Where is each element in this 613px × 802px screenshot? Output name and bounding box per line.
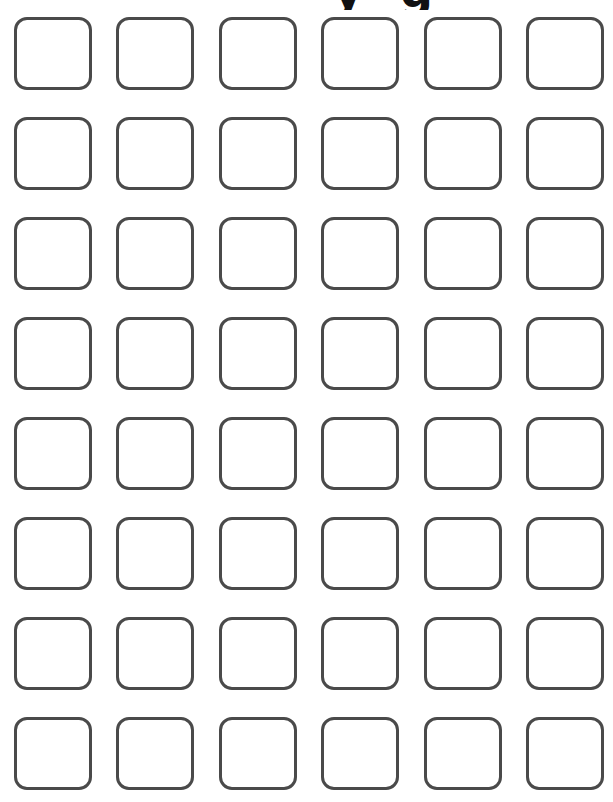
- empty-box-r1-c5: [424, 17, 502, 90]
- empty-box-r4-c4: [321, 317, 399, 390]
- empty-box-r5-c2: [116, 417, 194, 490]
- empty-box-r8-c4: [321, 717, 399, 790]
- empty-box-r1-c3: [219, 17, 297, 90]
- empty-box-r6-c5: [424, 517, 502, 590]
- empty-box-r5-c4: [321, 417, 399, 490]
- empty-box-r1-c1: [14, 17, 92, 90]
- empty-box-r7-c3: [219, 617, 297, 690]
- empty-box-r5-c6: [526, 417, 604, 490]
- empty-box-r6-c4: [321, 517, 399, 590]
- empty-box-r7-c1: [14, 617, 92, 690]
- empty-box-r8-c2: [116, 717, 194, 790]
- empty-box-r3-c2: [116, 217, 194, 290]
- empty-box-grid: [0, 0, 613, 802]
- empty-box-r2-c5: [424, 117, 502, 190]
- empty-box-r2-c3: [219, 117, 297, 190]
- empty-box-r4-c3: [219, 317, 297, 390]
- empty-box-r1-c2: [116, 17, 194, 90]
- empty-box-r5-c5: [424, 417, 502, 490]
- empty-box-r7-c2: [116, 617, 194, 690]
- empty-box-r4-c6: [526, 317, 604, 390]
- empty-box-r5-c3: [219, 417, 297, 490]
- empty-box-r6-c3: [219, 517, 297, 590]
- empty-box-r6-c6: [526, 517, 604, 590]
- empty-box-r1-c6: [526, 17, 604, 90]
- empty-box-r2-c4: [321, 117, 399, 190]
- empty-box-r1-c4: [321, 17, 399, 90]
- empty-box-r4-c5: [424, 317, 502, 390]
- empty-box-r8-c6: [526, 717, 604, 790]
- empty-box-r3-c4: [321, 217, 399, 290]
- empty-box-r2-c2: [116, 117, 194, 190]
- empty-box-r6-c2: [116, 517, 194, 590]
- empty-box-r8-c1: [14, 717, 92, 790]
- empty-box-r4-c1: [14, 317, 92, 390]
- empty-box-r6-c1: [14, 517, 92, 590]
- empty-box-r3-c3: [219, 217, 297, 290]
- empty-box-r5-c1: [14, 417, 92, 490]
- empty-box-r7-c6: [526, 617, 604, 690]
- empty-box-r4-c2: [116, 317, 194, 390]
- empty-box-r2-c6: [526, 117, 604, 190]
- empty-box-r7-c4: [321, 617, 399, 690]
- empty-box-r3-c6: [526, 217, 604, 290]
- empty-box-r7-c5: [424, 617, 502, 690]
- empty-box-r3-c5: [424, 217, 502, 290]
- empty-box-r8-c5: [424, 717, 502, 790]
- empty-box-r3-c1: [14, 217, 92, 290]
- empty-box-r2-c1: [14, 117, 92, 190]
- empty-box-r8-c3: [219, 717, 297, 790]
